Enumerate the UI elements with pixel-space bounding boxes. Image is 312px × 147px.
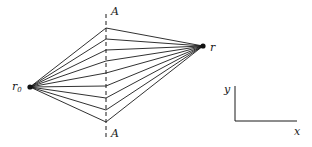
label-r0: r0: [12, 80, 22, 94]
target-point-r: [200, 43, 205, 48]
axes-lines: [235, 86, 297, 121]
ray-path: [30, 46, 203, 98]
y-axis-label: y: [223, 83, 231, 96]
label-a-top: A: [110, 5, 119, 18]
x-axis-label: x: [294, 125, 301, 138]
label-r: r: [210, 41, 216, 54]
ray-paths: [30, 28, 203, 122]
source-point-r0: [27, 84, 32, 89]
ray-path: [30, 46, 203, 122]
label-a-bottom: A: [110, 127, 119, 140]
path-diagram: A A r0 r y x: [0, 0, 312, 147]
coordinate-axes: y x: [223, 83, 301, 138]
